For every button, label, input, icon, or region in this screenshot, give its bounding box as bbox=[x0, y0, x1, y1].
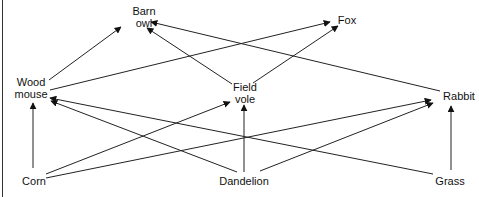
node-label-line: owl bbox=[132, 17, 155, 29]
node-barn-owl: Barnowl bbox=[132, 5, 155, 29]
node-label-line: Grass bbox=[435, 175, 464, 187]
node-field-vole: Fieldvole bbox=[233, 81, 257, 105]
node-label-line: Wood bbox=[14, 76, 47, 88]
node-label-line: Barn bbox=[132, 5, 155, 17]
node-label-line: vole bbox=[233, 93, 257, 105]
edge-corn-to-rabbit bbox=[46, 100, 431, 178]
node-label-line: mouse bbox=[14, 88, 47, 100]
edge-rabbit-to-barn-owl bbox=[151, 22, 440, 91]
node-corn: Corn bbox=[22, 175, 46, 187]
node-fox: Fox bbox=[338, 14, 356, 26]
node-dandelion: Dandelion bbox=[219, 175, 269, 187]
edge-wood-mouse-to-barn-owl bbox=[49, 27, 121, 80]
edge-dandelion-to-rabbit bbox=[260, 103, 433, 171]
node-label-line: Fox bbox=[338, 14, 356, 26]
edge-field-vole-to-fox bbox=[253, 26, 338, 83]
node-grass: Grass bbox=[435, 175, 464, 187]
node-label-line: Field bbox=[233, 81, 257, 93]
node-rabbit: Rabbit bbox=[443, 90, 475, 102]
node-label-line: Corn bbox=[22, 175, 46, 187]
food-web-diagram: BarnowlFoxWoodmouseFieldvoleRabbitCornDa… bbox=[0, 0, 479, 197]
edge-corn-to-field-vole bbox=[46, 102, 230, 174]
edge-field-vole-to-barn-owl bbox=[147, 28, 232, 84]
node-label-line: Rabbit bbox=[443, 90, 475, 102]
edge-grass-to-wood-mouse bbox=[50, 98, 433, 174]
node-label-line: Dandelion bbox=[219, 175, 269, 187]
node-wood-mouse: Woodmouse bbox=[14, 76, 47, 100]
